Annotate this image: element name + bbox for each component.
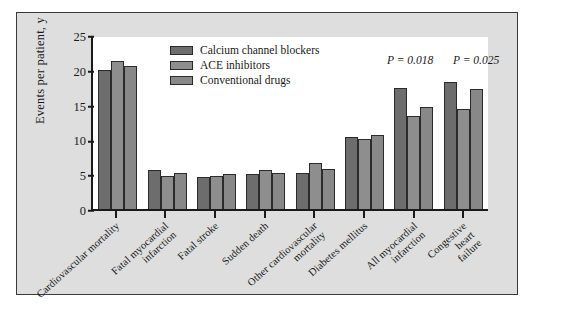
x-axis-tick [413, 211, 415, 218]
legend-label: Conventional drugs [200, 75, 290, 87]
x-axis-tick-label: Fatal stroke [176, 220, 221, 262]
x-axis-tick [462, 211, 464, 218]
legend-swatch-icon [170, 61, 193, 70]
chart-legend: Calcium channel blockersACE inhibitorsCo… [170, 44, 319, 87]
y-axis-label: Events per patient, y [33, 17, 48, 124]
bar[interactable] [407, 116, 420, 209]
x-axis-ticks: Cardiovascular mortalityFatal myocardial… [91, 211, 488, 212]
x-axis-tick [313, 211, 315, 218]
bar-group [93, 37, 142, 209]
bar[interactable] [148, 170, 161, 209]
legend-swatch-icon [170, 76, 193, 85]
bar[interactable] [371, 135, 384, 209]
bar[interactable] [210, 176, 223, 209]
bar[interactable] [223, 174, 236, 209]
bar[interactable] [98, 70, 111, 209]
bar[interactable] [111, 61, 124, 209]
bar[interactable] [259, 170, 272, 209]
bar[interactable] [358, 139, 371, 209]
bar[interactable] [161, 176, 174, 209]
x-axis-tick-label: All myocardial infarction [364, 220, 427, 280]
legend-item[interactable]: Conventional drugs [170, 74, 319, 87]
p-value-annotation: P = 0.025 [453, 54, 499, 66]
legend-label: Calcium channel blockers [200, 45, 319, 57]
bar[interactable] [420, 107, 433, 209]
x-axis-tick-label: Cardiovascular mortality [34, 220, 121, 300]
x-axis-tick [164, 211, 166, 218]
bar[interactable] [345, 137, 358, 209]
legend-item[interactable]: Calcium channel blockers [170, 44, 319, 57]
p-value-annotation: P = 0.018 [387, 54, 433, 66]
bar-group [340, 37, 389, 209]
x-axis-tick-label: Congestive heart failure [425, 220, 484, 278]
bar[interactable] [246, 174, 259, 209]
bar[interactable] [322, 169, 335, 209]
x-axis-tick [214, 211, 216, 218]
figure-panel: Events per patient, y 0510152025 Cardiov… [16, 12, 518, 295]
bar[interactable] [174, 173, 187, 209]
y-axis-tick-label: 25 [74, 31, 94, 44]
bar[interactable] [296, 173, 309, 209]
bar[interactable] [197, 177, 210, 209]
x-axis-tick-label: Sudden death [220, 220, 271, 267]
legend-item[interactable]: ACE inhibitors [170, 59, 319, 72]
bar[interactable] [394, 88, 407, 209]
bar[interactable] [470, 89, 483, 209]
bar[interactable] [124, 66, 137, 209]
x-axis-tick [363, 211, 365, 218]
y-axis-tick-label: 20 [74, 66, 94, 79]
y-axis-tick-label: 15 [74, 100, 94, 113]
y-axis-tick-label: 10 [74, 135, 94, 148]
x-axis-tick [264, 211, 266, 218]
bar[interactable] [457, 109, 470, 209]
x-axis-tick [115, 211, 117, 218]
bar[interactable] [309, 163, 322, 209]
legend-label: ACE inhibitors [200, 60, 270, 72]
bar[interactable] [272, 173, 285, 209]
legend-swatch-icon [170, 46, 193, 55]
bar[interactable] [444, 82, 457, 209]
y-axis-tick-label: 5 [80, 170, 93, 183]
